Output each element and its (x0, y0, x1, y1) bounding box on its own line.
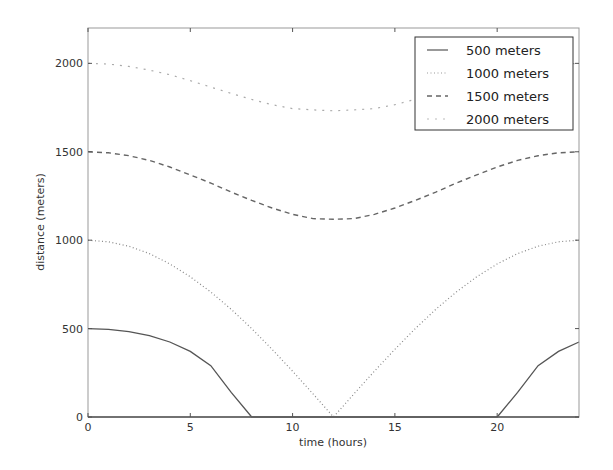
legend-label: 1000 meters (466, 66, 549, 81)
legend-label: 500 meters (466, 43, 541, 58)
legend-label: 2000 meters (466, 112, 549, 127)
legend: 500 meters 1000 meters 1500 meters 2000 … (415, 37, 573, 130)
x-tick-label: 10 (286, 421, 300, 434)
x-tick-label: 5 (187, 421, 194, 434)
legend-label: 1500 meters (466, 89, 549, 104)
y-tick-label: 1500 (55, 146, 83, 159)
x-axis-label: time (hours) (299, 436, 367, 449)
y-tick-label: 0 (76, 411, 83, 424)
y-tick-label: 2000 (55, 57, 83, 70)
series-line-1500 (88, 152, 579, 220)
x-tick-label: 0 (85, 421, 92, 434)
y-axis-label: distance (meters) (34, 173, 47, 271)
series-line-1000 (88, 240, 579, 417)
y-tick-label: 500 (62, 323, 83, 336)
series-line-500 (88, 329, 579, 417)
chart: 05101520 0500100015002000 time (hours) d… (0, 0, 613, 470)
y-tick-label: 1000 (55, 234, 83, 247)
x-tick-label: 15 (388, 421, 402, 434)
x-tick-label: 20 (490, 421, 504, 434)
